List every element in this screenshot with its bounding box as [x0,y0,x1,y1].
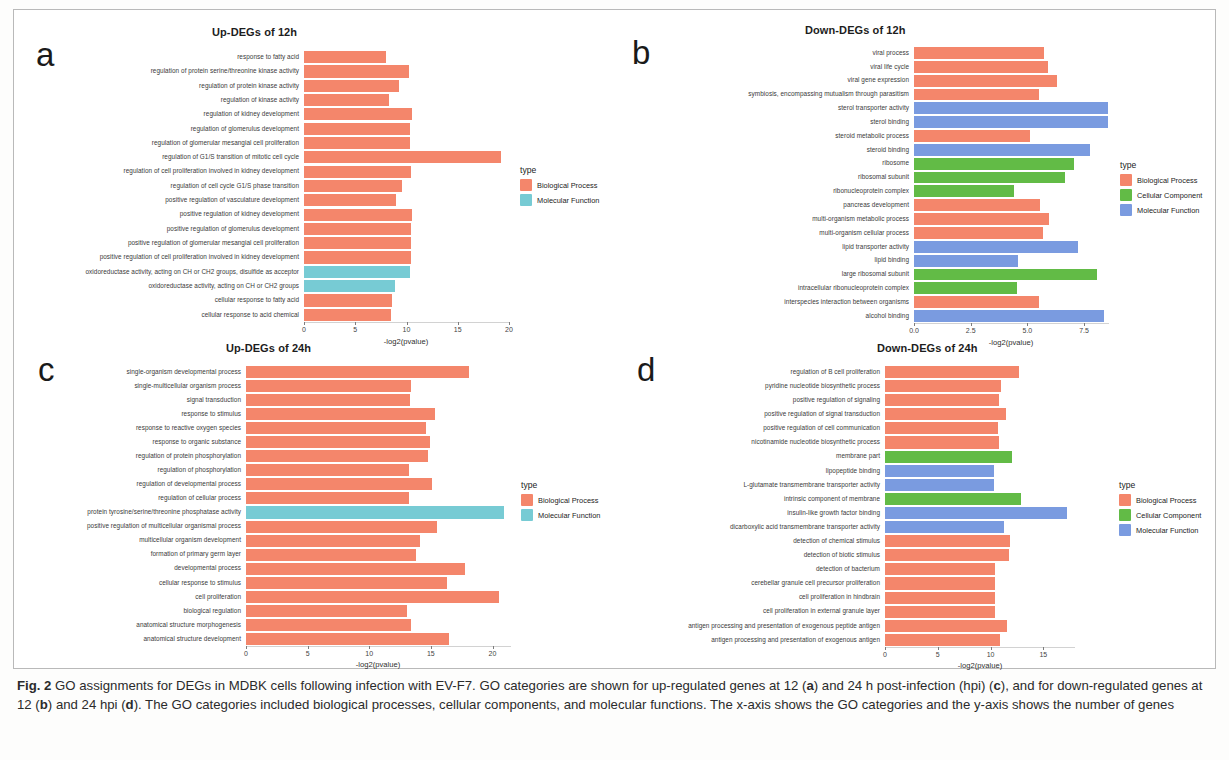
x-axis-tick-label: 20 [505,326,513,333]
panel-d-legend: typeBiological ProcessCellular Component… [1119,480,1201,539]
bar-row: cell proliferation [246,590,511,604]
legend-title: type [520,165,599,175]
bar [246,436,430,448]
x-axis-tick-label: 2.5 [966,327,976,334]
bar-row: viral gene expression [914,74,1109,88]
panel-d-xaxis-title: -log2(pvalue) [958,661,1002,670]
bar-category-label: positive regulation of signal transducti… [764,411,885,417]
bar [304,151,501,163]
bar-category-label: positive regulation of cell communicatio… [763,425,885,431]
bar-category-label: dicarboxylic acid transmembrane transpor… [730,524,885,530]
x-axis-tick-label: 10 [365,650,373,657]
x-axis-tick [1027,323,1028,326]
panel-d-title: Down-DEGs of 24h [877,342,978,354]
x-axis-tick-label: 20 [489,650,497,657]
panel-c: c Up-DEGs of 24h single-organism develop… [14,340,615,670]
bar [304,251,411,263]
bar [885,479,994,491]
x-axis-tick [914,323,915,326]
bar-category-label: regulation of kinase activity [221,97,304,103]
x-axis-tick [1084,323,1085,326]
x-axis-tick [938,647,939,650]
panel-a-legend: typeBiological ProcessMolecular Function [520,165,599,209]
x-axis-tick [885,647,886,650]
bar-row: alcohol binding [914,309,1109,323]
bar-category-label: cell proliferation in external granule l… [763,608,885,614]
bar-category-label: antigen processing and presentation of e… [711,637,885,643]
bar [304,194,396,206]
bar [914,310,1104,322]
bar [885,507,1067,519]
x-axis-tick-label: 15 [427,650,435,657]
bar [885,577,995,589]
bar [246,633,449,645]
bar-category-label: viral life cycle [870,64,914,70]
bar-category-label: oxidoreductase activity, acting on CH or… [148,283,304,289]
bar-row: L-glutamate transmembrane transporter ac… [885,478,1075,492]
bar-category-label: ribosome [882,160,914,166]
bar [914,102,1108,114]
figure-caption: Fig. 2 GO assignments for DEGs in MDBK c… [17,676,1215,714]
panel-b: b Down-DEGs of 12h viral processviral li… [615,10,1216,340]
bar [246,619,411,631]
bar [304,223,411,235]
x-axis-tick [246,646,247,649]
legend-label: Biological Process [1136,496,1196,505]
bar [304,209,412,221]
bar [885,620,1007,632]
bar-row: positive regulation of kidney developmen… [304,207,509,221]
bar-row: regulation of glomerulus development [304,122,509,136]
bar-category-label: insulin-like growth factor binding [787,510,885,516]
bar [304,123,410,135]
legend-swatch [520,194,532,206]
bar-category-label: alcohol binding [866,313,914,319]
x-axis-tick [458,322,459,325]
bar-row: regulation of phosphorylation [246,463,511,477]
bar-category-label: antigen processing and presentation of e… [688,623,885,629]
bar-row: protein tyrosine/serine/threonine phosph… [246,505,511,519]
legend-title: type [1119,480,1201,490]
bar-row: positive regulation of glomerulus develo… [304,222,509,236]
bar-row: lipid transporter activity [914,240,1109,254]
bar-category-label: ribosomal subunit [858,174,914,180]
bar-row: dicarboxylic acid transmembrane transpor… [885,520,1075,534]
bar-row: steroid binding [914,143,1109,157]
bar [885,521,1004,533]
bar [914,61,1048,73]
bar-category-label: detection of biotic stimulus [804,552,885,558]
x-axis-tick [971,323,972,326]
bar [304,294,392,306]
bar-row: ribonucleoprotein complex [914,184,1109,198]
panel-d-bars: regulation of B cell proliferationpyridi… [885,365,1075,647]
legend-item: Molecular Function [1119,524,1201,536]
bar-row: cell proliferation in external granule l… [885,605,1075,619]
bar [914,158,1074,170]
legend-label: Molecular Function [1137,206,1199,215]
bar-category-label: multi-organism cellular process [819,230,914,236]
bar-row: multicellular organism development [246,534,511,548]
bar-category-label: regulation of phosphorylation [157,467,246,473]
bar [246,366,469,378]
bar [246,521,437,533]
bar [885,493,1021,505]
bar [304,137,410,149]
bar [885,563,995,575]
bar-category-label: viral process [872,50,914,56]
bar-row: viral process [914,46,1109,60]
legend-swatch [1119,494,1131,506]
bar-category-label: sterol binding [870,119,914,125]
bar-category-label: lipid binding [875,257,914,263]
bar-row: response to fatty acid [304,50,509,64]
bar-category-label: formation of primary germ layer [151,551,246,557]
bar-row: lipopeptide binding [885,464,1075,478]
bar-category-label: response to reactive oxygen species [136,425,246,431]
x-axis-tick-label: 5 [353,326,357,333]
bar [246,422,426,434]
bar-row: positive regulation of multicellular org… [246,520,511,534]
bar-row: cell proliferation in hindbrain [885,591,1075,605]
bar-row: steroid metabolic process [914,129,1109,143]
bar [914,241,1078,253]
bar-row: detection of bacterium [885,562,1075,576]
legend-swatch [1120,204,1132,216]
panel-b-legend: typeBiological ProcessCellular Component… [1120,160,1202,219]
